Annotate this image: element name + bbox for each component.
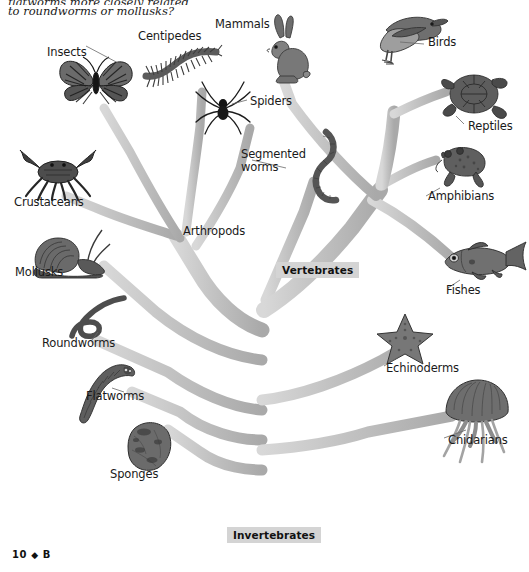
label-crustaceans: Crustaceans: [14, 196, 84, 209]
label-cnidarians: Cnidarians: [448, 434, 508, 447]
jellyfish-icon: [440, 378, 514, 466]
question-line-2: to roundworms or mollusks?: [8, 4, 174, 18]
label-arthropods: Arthropods: [183, 225, 245, 238]
label-amphibians: Amphibians: [428, 190, 494, 203]
seastar-icon: [374, 312, 436, 366]
butterfly-icon: [56, 52, 136, 110]
label-roundworms: Roundworms: [42, 337, 115, 350]
page-number: 10: [12, 549, 27, 560]
label-sponges: Sponges: [110, 468, 158, 481]
branch-tetrapods: [382, 112, 394, 184]
fish-icon: [438, 236, 526, 286]
frog-icon: [430, 140, 494, 190]
label-fishes: Fishes: [446, 284, 480, 297]
invertebrates-group-label: Invertebrates: [227, 527, 321, 543]
diamond-icon: ◆: [31, 550, 39, 560]
diagram-canvas: flatworms more closely related to roundw…: [0, 0, 529, 572]
crab-icon: [18, 144, 98, 202]
label-mollusks: Mollusks: [15, 266, 63, 279]
question-text: flatworms more closely related to roundw…: [8, 0, 258, 19]
branch-vertebrates: [264, 190, 380, 310]
label-spiders: Spiders: [250, 95, 292, 108]
turtle-icon: [432, 66, 514, 124]
spider-icon: [194, 82, 252, 136]
label-centipedes: Centipedes: [138, 30, 201, 43]
label-segmented-worms: Segmented worms: [241, 148, 303, 173]
earthworm-icon: [296, 130, 354, 202]
label-echinoderms: Echinoderms: [386, 362, 459, 375]
label-birds: Birds: [428, 36, 456, 49]
vertebrates-group-label: Vertebrates: [276, 262, 359, 278]
sponge-icon: [124, 420, 174, 472]
label-flatworms: Flatworms: [86, 390, 144, 403]
label-mammals: Mammals: [215, 18, 270, 31]
label-insects: Insects: [47, 46, 87, 59]
page-section: B: [43, 549, 51, 560]
branch-cnidarians: [262, 416, 452, 450]
page-footer: 10 ◆ B: [12, 549, 51, 560]
label-reptiles: Reptiles: [468, 120, 513, 133]
